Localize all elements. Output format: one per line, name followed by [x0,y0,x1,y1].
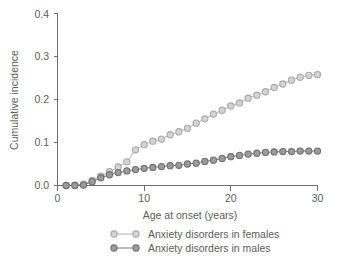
data-point [314,71,320,77]
data-point [228,154,234,160]
data-point [245,95,251,101]
data-point [314,148,320,154]
chart-canvas: 0.0 0.1 0.2 0.3 0.4 0 10 20 30 Age at on… [0,0,337,263]
series-males [63,148,321,189]
data-point [210,111,216,117]
x-tick-label: 0 [55,192,61,204]
legend-entry-males: Anxiety disorders in males [111,242,271,254]
y-tick-label: 0.1 [34,136,49,148]
data-point [271,84,277,90]
data-point [228,103,234,109]
legend-entry-females: Anxiety disorders in females [111,228,279,240]
data-point [98,175,104,181]
data-point [132,147,138,153]
data-point [184,125,190,131]
data-point [106,172,112,178]
data-point [132,166,138,172]
data-point [124,159,130,165]
data-point [202,158,208,164]
y-axis-tick-labels: 0.0 0.1 0.2 0.3 0.4 [34,8,49,191]
data-point [193,120,199,126]
data-point [202,116,208,122]
data-point [297,148,303,154]
data-point [184,161,190,167]
y-tick-label: 0.3 [34,50,49,62]
data-point [288,77,294,83]
series-layer [63,71,321,188]
series-line [66,151,317,185]
data-point [63,182,69,188]
y-axis-ticks [54,14,58,186]
data-point [236,100,242,106]
data-point [72,182,78,188]
data-point [262,149,268,155]
data-point [219,107,225,113]
data-point [158,163,164,169]
x-tick-label: 20 [225,192,237,204]
x-tick-label: 10 [138,192,150,204]
data-point [254,92,260,98]
data-point [193,160,199,166]
cumulative-incidence-chart: 0.0 0.1 0.2 0.3 0.4 0 10 20 30 Age at on… [0,0,337,263]
data-point [150,138,156,144]
data-point [271,149,277,155]
y-axis-title: Cumulative incidence [8,50,20,150]
series-line [66,75,317,186]
series-females [63,71,321,188]
data-point [80,182,86,188]
y-tick-label: 0.0 [34,179,49,191]
chart-legend: Anxiety disorders in females Anxiety dis… [111,228,279,254]
data-point [210,157,216,163]
legend-label-females: Anxiety disorders in females [148,228,279,240]
data-point [297,74,303,80]
data-point [89,179,95,185]
data-point [141,142,147,148]
data-point [245,151,251,157]
data-point [280,81,286,87]
data-point [306,148,312,154]
data-point [306,72,312,78]
data-point [219,155,225,161]
data-point [254,150,260,156]
data-point [167,163,173,169]
data-point [150,164,156,170]
data-point [176,162,182,168]
x-axis-tick-labels: 0 10 20 30 [55,192,324,204]
data-point [288,148,294,154]
data-point [167,132,173,138]
data-point [141,165,147,171]
y-tick-label: 0.4 [34,8,49,20]
data-point [280,148,286,154]
x-tick-label: 30 [312,192,324,204]
legend-label-males: Anxiety disorders in males [148,242,271,254]
data-point [176,129,182,135]
data-point [124,168,130,174]
y-tick-label: 0.2 [34,93,49,105]
x-axis-title: Age at onset (years) [143,209,238,221]
data-point [158,136,164,142]
data-point [236,152,242,158]
x-axis-ticks [58,186,318,191]
data-point [262,89,268,95]
data-point [115,170,121,176]
